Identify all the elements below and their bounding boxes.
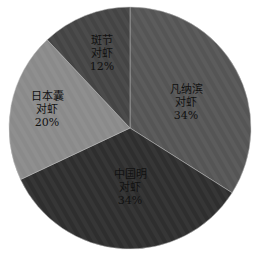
pie-chart: 凡纳滨对虾34%中国明对虾34%日本囊对虾20%斑节对虾12% [0,0,261,254]
slice-label: 斑节对虾12% [90,34,114,73]
